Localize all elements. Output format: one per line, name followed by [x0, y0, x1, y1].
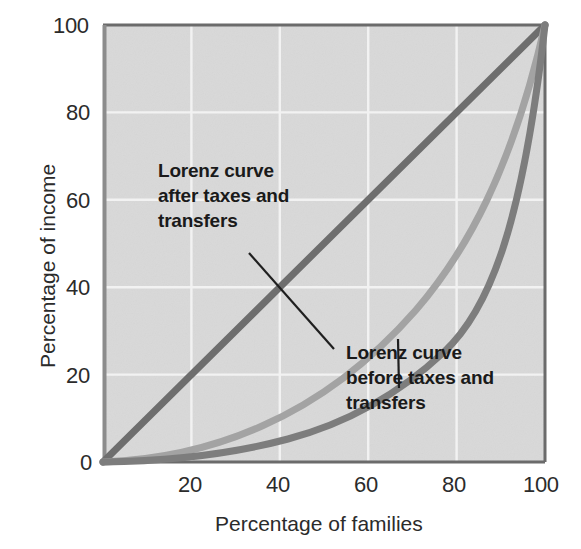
y-tick-label-40: 40	[66, 275, 90, 301]
annotation-after-taxes: Lorenz curve after taxes and transfers	[158, 158, 289, 233]
x-tick-label-80: 80	[442, 472, 466, 498]
y-tick-label-100: 100	[53, 13, 89, 39]
annotation-before-line3: transfers	[346, 390, 494, 415]
annotation-before-line2: before taxes and	[346, 365, 494, 390]
annotation-after-line3: transfers	[158, 208, 289, 233]
annotation-before-taxes: Lorenz curve before taxes and transfers	[346, 340, 494, 415]
x-tick-label-20: 20	[178, 472, 202, 498]
x-axis-title: Percentage of families	[215, 512, 423, 536]
x-tick-label-60: 60	[354, 472, 378, 498]
annotation-before-line1: Lorenz curve	[346, 340, 494, 365]
annotation-after-line1: Lorenz curve	[158, 158, 289, 183]
y-tick-label-20: 20	[66, 363, 90, 389]
y-axis-title: Percentage of income	[36, 164, 60, 368]
y-tick-label-80: 80	[66, 100, 90, 126]
x-tick-label-40: 40	[266, 472, 290, 498]
y-tick-label-60: 60	[66, 188, 90, 214]
annotation-after-line2: after taxes and	[158, 183, 289, 208]
x-tick-label-100: 100	[523, 472, 559, 498]
y-tick-label-0: 0	[80, 450, 92, 476]
